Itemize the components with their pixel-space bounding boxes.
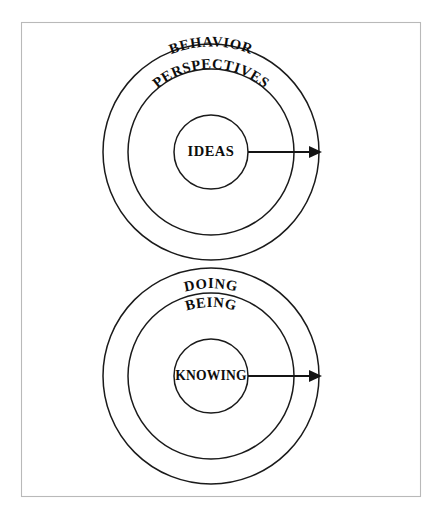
bottom-inner-ring-label: KNOWING: [175, 368, 247, 383]
figure-canvas: BEHAVIOR PERSPECTIVES IDEAS DOING: [0, 0, 445, 524]
concentric-circles-diagram: BEHAVIOR PERSPECTIVES IDEAS DOING: [0, 0, 445, 524]
top-inner-ring-label: IDEAS: [188, 143, 235, 159]
